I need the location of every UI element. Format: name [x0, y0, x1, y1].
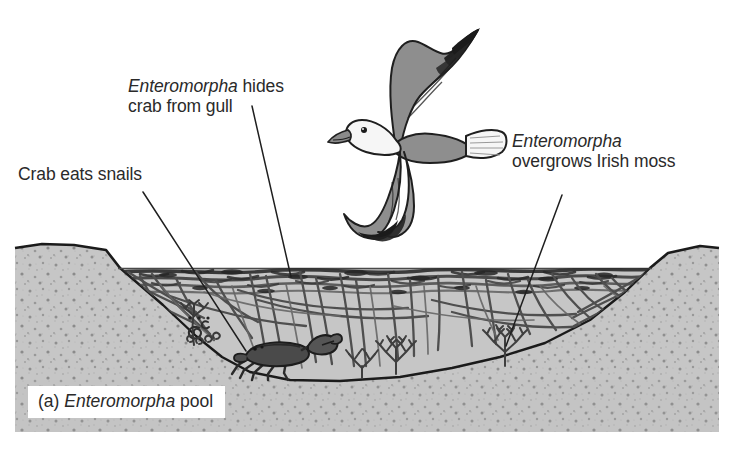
- label-enteromorpha-overgrows-irish-moss: Enteromorpha overgrows Irish moss: [512, 131, 727, 172]
- label-crab-eats-snails: Crab eats snails: [18, 164, 233, 184]
- gull-eye: [361, 127, 367, 133]
- caption-prefix: (a): [38, 391, 64, 411]
- gull-body: [392, 134, 474, 163]
- label-text: overgrows Irish moss: [512, 151, 675, 171]
- label-species-name: Enteromorpha: [128, 76, 238, 96]
- leader-enteromorpha-hides-crab-from-gull: [252, 106, 291, 277]
- figure-caption: (a) Enteromorpha pool: [28, 386, 225, 418]
- label-species-name: Enteromorpha: [512, 131, 622, 151]
- caption-suffix: pool: [175, 391, 213, 411]
- label-enteromorpha-hides-crab-from-gull: Enteromorpha hides crab from gull: [128, 76, 323, 117]
- label-text: Crab eats snails: [18, 164, 142, 184]
- gull-lower-wing: [344, 152, 401, 238]
- herring-gull-in-flight: [328, 28, 507, 241]
- caption-species-name: Enteromorpha: [64, 391, 175, 411]
- gull-beak: [328, 130, 351, 143]
